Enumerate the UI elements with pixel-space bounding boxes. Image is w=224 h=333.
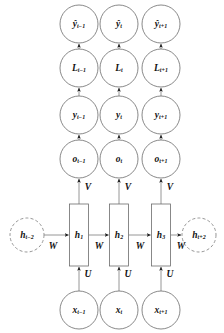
rnn-unfolded-graph-figure: ŷt−1ŷtŷt+1Lt−1LtLt+1yt−1ytyt+1ot−1oto… xyxy=(0,0,224,333)
weight-label-u-2: U xyxy=(125,269,133,279)
weight-label-v-3: V xyxy=(167,182,174,192)
weight-label-w-1: W xyxy=(49,241,58,251)
weight-label-w-3: W xyxy=(136,241,145,251)
weight-label-v-1: V xyxy=(85,182,92,192)
nodes-layer: ŷt−1ŷtŷt+1Lt−1LtLt+1yt−1ytyt+1ot−1oto… xyxy=(10,5,216,329)
diagram-canvas: ŷt−1ŷtŷt+1Lt−1LtLt+1yt−1ytyt+1ot−1oto… xyxy=(0,0,224,333)
weight-label-w-2: W xyxy=(95,241,104,251)
weight-label-u-3: U xyxy=(167,269,175,279)
weight-label-v-2: V xyxy=(125,182,132,192)
weight-label-u-1: U xyxy=(85,269,93,279)
weight-label-w-4: W xyxy=(177,241,186,251)
